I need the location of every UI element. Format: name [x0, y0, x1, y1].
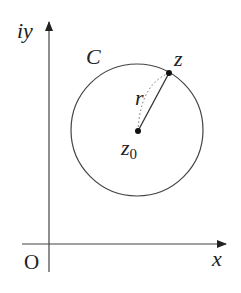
center-label-base: z	[120, 135, 130, 160]
radius-label: r	[135, 85, 144, 110]
x-axis-label: x	[211, 246, 222, 271]
center-label-subscript: 0	[130, 146, 138, 162]
origin-label: O	[24, 250, 39, 274]
point-z	[166, 70, 172, 76]
center-point	[135, 128, 141, 134]
complex-plane-diagram: iy x O C z r z0	[0, 0, 241, 293]
y-axis-label: iy	[17, 18, 33, 43]
circle-label: C	[86, 44, 101, 69]
point-z-label: z	[173, 46, 183, 71]
center-label: z0	[120, 135, 137, 162]
